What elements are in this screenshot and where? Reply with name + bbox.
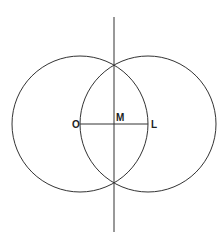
label-l: L [151, 119, 157, 130]
label-o: O [72, 119, 80, 130]
label-m: M [116, 112, 124, 123]
construction-diagram: O M L [0, 0, 223, 247]
